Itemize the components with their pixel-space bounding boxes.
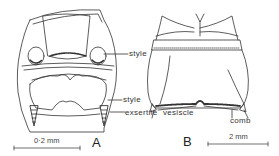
scale-bar-label-b: 2 mm — [229, 133, 248, 141]
panel-a-drawing — [17, 10, 128, 132]
panel-label-a: A — [92, 136, 101, 149]
panel-b-drawing — [148, 14, 249, 118]
label-vesiscle: vesiscle — [163, 109, 194, 117]
label-comb: comb — [230, 117, 251, 125]
label-exsertile: exsertile — [125, 109, 158, 117]
label-style-upper: style — [129, 50, 147, 58]
panel-label-b: B — [183, 135, 192, 148]
scale-bar-label-a: 0·2 mm — [34, 137, 59, 145]
label-style-lower: style — [123, 96, 141, 104]
